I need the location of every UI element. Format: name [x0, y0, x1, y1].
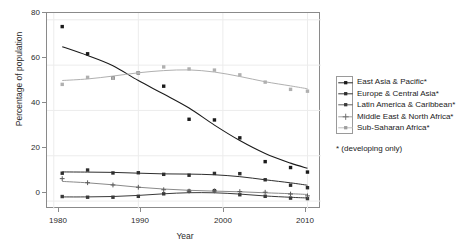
data-point	[86, 52, 89, 55]
data-point	[187, 67, 190, 70]
plot-canvas	[47, 13, 321, 209]
y-tick-label-20: 20	[16, 143, 40, 152]
y-tick-label-0: 0	[16, 188, 40, 197]
legend: East Asia & Pacific* Europe & Central As…	[336, 76, 466, 153]
x-tick-label-2010: 2010	[287, 216, 323, 225]
plot-area	[46, 12, 320, 208]
data-point	[289, 88, 292, 91]
data-point	[263, 160, 266, 163]
y-axis-label: Percentage of population	[14, 14, 24, 144]
legend-label: Middle East & North Africa*	[353, 111, 453, 123]
data-point	[111, 77, 114, 80]
x-axis-label: Year	[140, 231, 230, 241]
legend-marker-square-icon	[336, 76, 353, 88]
chart-figure: 80 60 40 20 0 1980 1990 2000 2010 Percen…	[0, 0, 470, 250]
data-point	[137, 171, 140, 174]
legend-label: Europe & Central Asia*	[353, 88, 439, 100]
data-point	[187, 118, 190, 121]
legend-marker-square-icon	[336, 88, 353, 100]
data-point	[289, 196, 292, 199]
x-tick-label-2000: 2000	[205, 216, 241, 225]
legend-entries: East Asia & Pacific* Europe & Central As…	[336, 76, 466, 134]
data-point	[111, 171, 114, 174]
data-point	[238, 172, 241, 175]
legend-item-east-asia-pacific[interactable]: East Asia & Pacific*	[336, 76, 466, 88]
x-tick-label-1990: 1990	[122, 216, 158, 225]
data-point	[162, 173, 165, 176]
series-3	[60, 176, 310, 198]
data-point	[289, 184, 292, 187]
data-point	[263, 178, 266, 181]
data-point	[213, 68, 216, 71]
series-0	[61, 25, 310, 174]
legend-label: Latin America & Caribbean*	[353, 99, 455, 111]
data-point	[86, 196, 89, 199]
legend-marker-square-icon	[336, 99, 353, 111]
series-4	[61, 65, 310, 93]
series-line	[62, 70, 307, 89]
data-point	[213, 172, 216, 175]
data-point	[162, 84, 165, 87]
data-point	[238, 136, 241, 139]
data-point	[86, 76, 89, 79]
legend-label: East Asia & Pacific*	[353, 76, 427, 88]
data-point	[162, 192, 165, 195]
data-point	[306, 89, 309, 92]
data-point	[306, 170, 309, 173]
data-point	[61, 83, 64, 86]
legend-item-middle-east-north-africa[interactable]: Middle East & North Africa*	[336, 111, 466, 123]
legend-marker-square-icon	[336, 122, 353, 134]
data-point	[187, 174, 190, 177]
data-point	[61, 25, 64, 28]
data-point	[289, 166, 292, 169]
data-point	[162, 65, 165, 68]
data-point	[137, 195, 140, 198]
data-point	[263, 195, 266, 198]
legend-item-europe-central-asia[interactable]: Europe & Central Asia*	[336, 88, 466, 100]
data-point	[238, 73, 241, 76]
data-point	[306, 186, 309, 189]
data-point	[86, 168, 89, 171]
data-point	[61, 171, 64, 174]
legend-footnote: * (developing only)	[336, 144, 466, 153]
data-point	[213, 118, 216, 121]
series-1	[61, 168, 310, 189]
legend-item-sub-saharan-africa[interactable]: Sub-Saharan Africa*	[336, 122, 466, 134]
legend-label: Sub-Saharan Africa*	[353, 122, 430, 134]
data-point	[61, 195, 64, 198]
series-2	[61, 189, 310, 200]
data-point	[111, 196, 114, 199]
x-tick-label-1980: 1980	[40, 216, 76, 225]
data-point	[137, 71, 140, 74]
legend-item-latin-america-caribbean[interactable]: Latin America & Caribbean*	[336, 99, 466, 111]
legend-marker-plus-icon	[336, 111, 353, 123]
grid-lines	[47, 13, 321, 209]
data-point	[263, 80, 266, 83]
